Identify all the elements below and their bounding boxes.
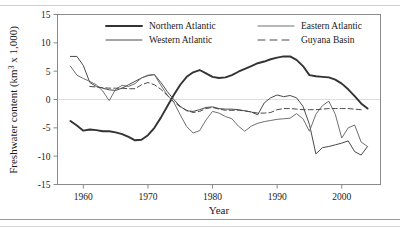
series-line-northern-atlantic	[70, 56, 367, 140]
scan-artifact-rule-bottom	[0, 219, 400, 220]
y-tick-label: -10	[38, 152, 51, 162]
y-tick-label: 10	[41, 38, 51, 48]
svg-text:Freshwater content (km3 x 1,00: Freshwater content (km3 x 1,000)	[7, 26, 20, 174]
series-layer	[70, 56, 367, 155]
y-tick-label: 0	[46, 95, 51, 105]
y-tick-label: 5	[46, 67, 51, 77]
legend-label-eastern-atlantic: Eastern Atlantic	[301, 21, 362, 31]
y-tick-label: -15	[38, 180, 51, 190]
figure-container: Freshwater content (km3 x 1,000) 151050-…	[0, 0, 400, 228]
y-axis-ticks: 151050-5-10-15	[38, 10, 58, 190]
x-tick-label: 1980	[203, 192, 222, 202]
legend-label-western-atlantic: Western Atlantic	[149, 35, 212, 45]
scan-artifact-rule-top	[0, 5, 400, 6]
y-axis-title-pre: Freshwater content (km	[7, 69, 20, 174]
x-tick-label: 1960	[74, 192, 93, 202]
x-tick-label: 2000	[332, 192, 351, 202]
x-tick-label: 1990	[268, 192, 287, 202]
x-axis-title: Year	[209, 204, 230, 216]
y-axis-title-post: x 1,000)	[7, 26, 20, 66]
x-axis-ticks: 19601970198019902000	[74, 185, 352, 202]
scan-artifact-rule-bottom-secondary	[0, 226, 400, 227]
legend-label-guyana-basin: Guyana Basin	[301, 35, 355, 45]
legend-label-northern-atlantic: Northern Atlantic	[149, 21, 216, 31]
chart-legend: Northern AtlanticEastern AtlanticWestern…	[106, 21, 362, 45]
line-chart: Freshwater content (km3 x 1,000) 151050-…	[0, 0, 400, 228]
y-tick-label: 15	[41, 10, 51, 20]
y-tick-label: -5	[43, 123, 51, 133]
x-tick-label: 1970	[138, 192, 157, 202]
y-axis-title: Freshwater content (km3 x 1,000)	[7, 26, 20, 174]
